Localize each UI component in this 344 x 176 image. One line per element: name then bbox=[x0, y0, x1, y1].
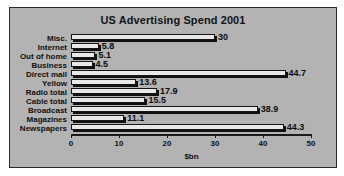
x-axis-tick-label: 0 bbox=[69, 139, 73, 148]
bar-row: Yellow13.6 bbox=[71, 79, 311, 88]
bar bbox=[71, 124, 284, 130]
bar-row: Newspapers44.3 bbox=[71, 124, 311, 133]
bar bbox=[71, 34, 215, 40]
bar-value-label: 44.3 bbox=[287, 123, 305, 132]
category-label: Internet bbox=[38, 43, 67, 52]
bar-row: Magazines11.1 bbox=[71, 115, 311, 124]
x-axis-tick-label: 10 bbox=[115, 139, 124, 148]
bar bbox=[71, 70, 286, 76]
bar-value-label: 15.5 bbox=[148, 96, 166, 105]
category-label: Broadcast bbox=[28, 106, 67, 115]
bar-row: Direct mail44.7 bbox=[71, 70, 311, 79]
bar bbox=[71, 79, 136, 85]
x-axis-tick-label: 40 bbox=[259, 139, 268, 148]
bar bbox=[71, 52, 95, 58]
x-axis-tick bbox=[311, 134, 312, 138]
x-axis-title: $bn bbox=[71, 152, 312, 161]
category-label: Magazines bbox=[27, 115, 67, 124]
x-axis-line bbox=[71, 134, 312, 136]
category-label: Radio total bbox=[26, 88, 67, 97]
bar bbox=[71, 115, 124, 121]
bar bbox=[71, 61, 93, 67]
x-axis-tick bbox=[263, 134, 264, 138]
x-axis-tick bbox=[215, 134, 216, 138]
bar-value-label: 30 bbox=[218, 33, 228, 42]
category-label: Newspapers bbox=[20, 124, 67, 133]
bar-value-label: 44.7 bbox=[289, 69, 307, 78]
x-axis-tick bbox=[167, 134, 168, 138]
bar bbox=[71, 43, 99, 49]
x-axis-tick-label: 20 bbox=[163, 139, 172, 148]
bar-value-label: 13.6 bbox=[139, 78, 157, 87]
bar bbox=[71, 88, 157, 94]
chart-plot-panel: US Advertising Spend 2001 Misc.30Interne… bbox=[9, 7, 337, 168]
bar bbox=[71, 97, 145, 103]
x-axis-tick bbox=[71, 134, 72, 138]
bar-row: Radio total17.9 bbox=[71, 88, 311, 97]
chart-title: US Advertising Spend 2001 bbox=[10, 14, 336, 26]
x-axis-tick bbox=[119, 134, 120, 138]
bar-value-label: 4.5 bbox=[96, 60, 109, 69]
x-axis-tick-label: 30 bbox=[211, 139, 220, 148]
bar-value-label: 38.9 bbox=[261, 105, 279, 114]
chart-plot-area: Misc.30Internet5.8Out of home5.1Business… bbox=[71, 34, 311, 134]
bar-row: Business4.5 bbox=[71, 61, 311, 70]
category-label: Cable total bbox=[26, 97, 67, 106]
bar bbox=[71, 106, 258, 112]
category-label: Business bbox=[31, 61, 67, 70]
category-label: Misc. bbox=[47, 34, 67, 43]
bar-value-label: 11.1 bbox=[127, 114, 144, 123]
category-label: Direct mail bbox=[26, 70, 67, 79]
chart-figure: US Advertising Spend 2001 Misc.30Interne… bbox=[0, 0, 344, 176]
category-label: Yellow bbox=[42, 79, 67, 88]
x-axis-tick-label: 50 bbox=[307, 139, 316, 148]
category-label: Out of home bbox=[20, 52, 67, 61]
bar-row: Broadcast38.9 bbox=[71, 106, 311, 115]
